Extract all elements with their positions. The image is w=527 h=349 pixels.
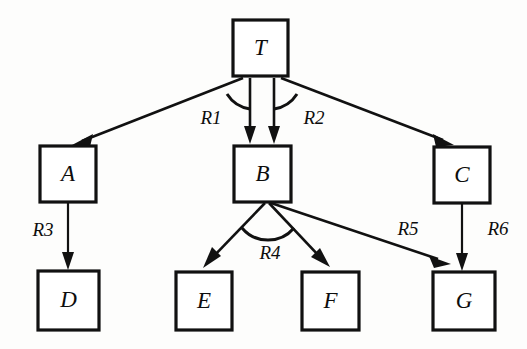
relation-label-r2: R2	[302, 107, 325, 128]
arc-r1	[227, 94, 250, 109]
edge-b-e-line	[212, 203, 265, 258]
node-d-label: D	[59, 287, 77, 312]
edge-c-to-g	[456, 203, 468, 271]
arc-r4	[242, 228, 294, 240]
node-a-label: A	[59, 161, 76, 186]
relation-label-r4: R4	[258, 242, 281, 263]
node-d[interactable]: D	[38, 271, 99, 330]
edge-t-c-arrowhead	[433, 134, 454, 147]
edge-a-d-arrowhead	[62, 252, 74, 270]
edge-a-to-d	[62, 202, 74, 270]
relation-label-r6: R6	[486, 218, 509, 239]
relation-label-r5: R5	[396, 218, 418, 239]
decomposition-tree-svg: T A B C D E	[0, 0, 527, 349]
arc-r2	[274, 94, 297, 109]
node-group: T A B C D E	[38, 20, 495, 330]
edge-b-to-e	[203, 203, 265, 268]
edge-t-b1-arrowhead	[244, 126, 256, 144]
node-b[interactable]: B	[234, 146, 291, 202]
node-g[interactable]: G	[433, 272, 495, 330]
node-f[interactable]: F	[302, 272, 359, 330]
edge-t-to-b-right	[268, 78, 280, 144]
node-g-label: G	[456, 288, 473, 313]
node-c[interactable]: C	[434, 147, 490, 203]
node-c-label: C	[454, 162, 470, 187]
node-b-label: B	[255, 161, 269, 186]
node-f-label: F	[322, 288, 338, 313]
relation-label-r1: R1	[199, 107, 221, 128]
node-t-label: T	[254, 35, 269, 60]
node-e[interactable]: E	[176, 272, 232, 330]
diagram-canvas: T A B C D E	[0, 0, 527, 349]
edge-t-to-b-left	[244, 78, 256, 144]
edge-c-g-arrowhead	[456, 253, 468, 271]
node-a[interactable]: A	[40, 146, 96, 202]
edge-t-b2-arrowhead	[268, 126, 280, 144]
edge-b-g-arrowhead	[429, 256, 451, 268]
node-e-label: E	[196, 288, 211, 313]
relation-label-r3: R3	[31, 219, 53, 240]
node-t[interactable]: T	[233, 20, 288, 76]
